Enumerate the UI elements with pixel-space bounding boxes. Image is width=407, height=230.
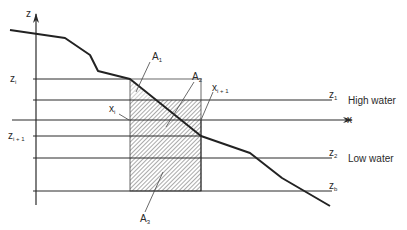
xi1-label: xi + 1	[212, 82, 229, 94]
xi-leader-line	[119, 114, 129, 120]
xi-label: xi	[109, 103, 115, 115]
a1-label: A1	[152, 51, 163, 63]
x-axis-label: x	[347, 114, 352, 125]
a3-label: A3	[140, 213, 151, 225]
low-water-label: Low water	[348, 153, 394, 164]
a2-label: A2	[192, 71, 203, 83]
a1-leader-line	[136, 62, 150, 92]
z-axis-label: z	[26, 8, 31, 19]
zi-label: zi	[10, 73, 16, 85]
area-a3-region	[130, 100, 201, 191]
high-water-label: High water	[348, 95, 396, 106]
z2-label: z2	[329, 147, 338, 159]
zi1-label: zi + 1	[8, 130, 25, 142]
xi1-leader-line	[201, 92, 213, 120]
beach-profile-diagram: z x zi zi + 1 z1 High water z2 Low water…	[0, 0, 407, 230]
zb-label: zb	[329, 180, 338, 192]
z1-label: z1	[329, 89, 338, 101]
